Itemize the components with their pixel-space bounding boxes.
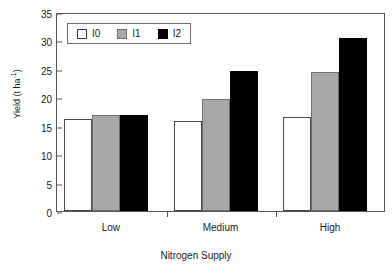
y-tick-label: 10 (41, 151, 57, 162)
bar-high-i1 (311, 72, 339, 211)
x-tick-label-medium: Medium (203, 222, 239, 233)
y-axis-title-text: Yield (t ha (12, 79, 22, 119)
bar-medium-i2 (230, 71, 258, 211)
bar-low-i1 (92, 115, 120, 211)
y-tick-label: 35 (41, 9, 57, 20)
x-tick-label-high: High (320, 222, 341, 233)
bar-medium-i1 (202, 99, 230, 211)
bar-low-i0 (64, 119, 92, 211)
y-tick-mark (57, 184, 62, 185)
bar-low-i2 (120, 115, 148, 211)
y-tick-label: 15 (41, 122, 57, 133)
y-tick-mark (57, 70, 62, 71)
y-tick-label: 20 (41, 94, 57, 105)
legend-label: I1 (132, 28, 140, 39)
y-tick-label: 25 (41, 65, 57, 76)
black-square-swatch (158, 29, 168, 39)
y-axis-title: Yield (t ha-1) (10, 34, 22, 154)
x-tick-label-low: Low (102, 222, 120, 233)
y-tick-mark (57, 156, 62, 157)
legend-item-i2: I2 (158, 28, 181, 39)
y-tick-mark (57, 213, 62, 214)
y-tick-label: 0 (46, 208, 57, 219)
y-tick-label: 5 (46, 179, 57, 190)
legend-item-i1: I1 (117, 28, 140, 39)
y-axis-title-exponent: -1 (10, 72, 17, 78)
legend-label: I0 (92, 28, 100, 39)
bar-medium-i0 (174, 121, 202, 211)
y-tick-mark (57, 14, 62, 15)
bar-high-i2 (339, 38, 367, 211)
y-axis-title-paren: ) (12, 69, 22, 72)
chart-legend: I0I1I2 (67, 23, 191, 44)
y-tick-mark (57, 42, 62, 43)
y-tick-label: 30 (41, 37, 57, 48)
x-tick-mark (167, 211, 168, 217)
bar-chart-figure: Yield (t ha-1) 05101520253035 I0I1I2 Low… (0, 0, 392, 275)
gray-square-swatch (117, 29, 127, 39)
x-axis-title: Nitrogen Supply (0, 250, 392, 261)
y-tick-mark (57, 99, 62, 100)
x-tick-mark (276, 211, 277, 217)
bar-high-i0 (283, 117, 311, 211)
legend-label: I2 (173, 28, 181, 39)
white-square-swatch (77, 29, 87, 39)
legend-item-i0: I0 (77, 28, 100, 39)
plot-area: 05101520253035 I0I1I2 (56, 13, 385, 212)
y-tick-mark (57, 127, 62, 128)
